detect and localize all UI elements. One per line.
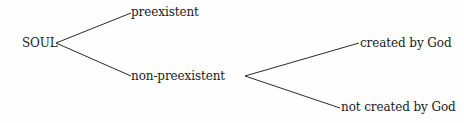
edge-soul-preexistent <box>56 13 131 43</box>
node-created-by-god: created by God <box>360 36 452 50</box>
edge-non-preexistent-not-created <box>245 76 340 108</box>
node-non-preexistent: non-preexistent <box>131 69 225 83</box>
node-not-created-by-god: not created by God <box>341 100 456 114</box>
edge-non-preexistent-created <box>245 43 359 76</box>
edge-soul-non-preexistent <box>56 43 131 76</box>
node-preexistent: preexistent <box>131 5 199 19</box>
node-soul: SOUL <box>22 36 58 50</box>
soul-classification-diagram: SOUL preexistent non-preexistent created… <box>0 0 464 123</box>
